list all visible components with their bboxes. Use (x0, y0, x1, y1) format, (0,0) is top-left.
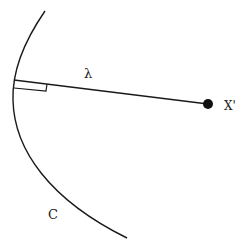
curve-c-label: C (48, 207, 58, 222)
right-angle-marker (14, 84, 47, 91)
lambda-label: λ (84, 66, 92, 81)
point-x-label: X' (224, 99, 236, 113)
point-x-dot (203, 99, 213, 109)
perpendicular-line (14, 80, 208, 104)
diagram-canvas: λ X' C (0, 0, 242, 244)
curve-c (13, 11, 127, 238)
